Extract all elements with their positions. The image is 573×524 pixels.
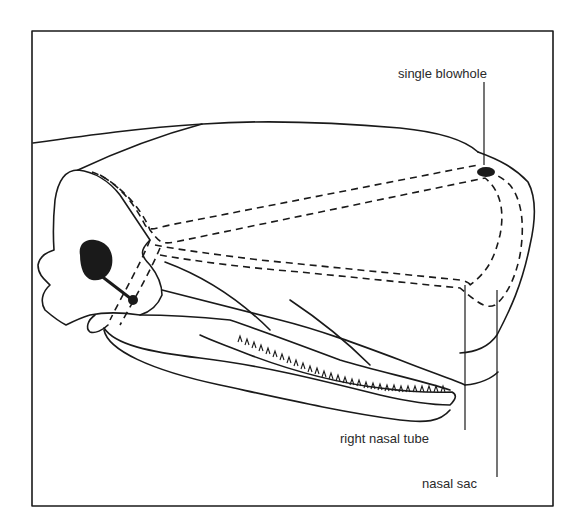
brain-blob [80,240,138,305]
rostrum-cross-2 [290,300,370,365]
label-nasal-sac: nasal sac [422,476,477,491]
label-single-blowhole: single blowhole [398,66,487,81]
lower-jaw-outline [104,328,455,405]
rostrum-cross-1 [165,262,270,330]
head-top-outline [78,124,202,170]
blowhole-marker [477,167,495,177]
nasal-passage-upper-2 [100,175,502,285]
body-outline [33,122,478,152]
whale-head-diagram [0,0,573,524]
right-nasal-tube-dashed [110,240,150,320]
rostrum-tip [465,372,498,385]
rostrum-middle [140,315,450,390]
nasal-passage-lower [155,245,471,290]
label-right-nasal-tube: right nasal tube [340,431,429,446]
left-nasal-tube-dashed [120,248,160,325]
teeth [238,336,445,392]
